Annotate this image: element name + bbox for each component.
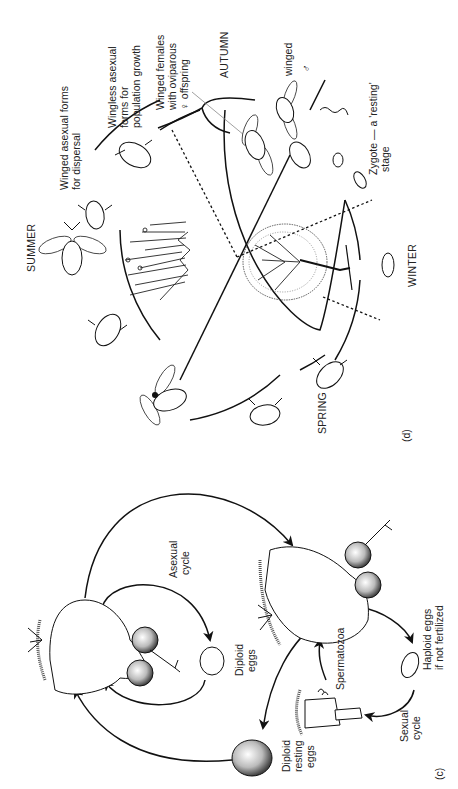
- svg-text:forms for: forms for: [118, 86, 130, 128]
- arrow-spermatozoa: [319, 640, 326, 680]
- label-spermatozoa: Spermatozoa: [334, 627, 346, 690]
- aphid-spring-winged: [136, 362, 189, 427]
- tree-illustration: [243, 224, 352, 300]
- aphid-summer-winged: [37, 222, 109, 275]
- rotifer-adult-asexual: [28, 600, 180, 694]
- grass-illustration: [125, 222, 190, 300]
- svg-text:Asexual: Asexual: [167, 541, 179, 578]
- label-wingless-asexual: Wingless asexual forms for population gr…: [106, 45, 142, 128]
- diploid-egg: [200, 647, 224, 675]
- aphid-summer-wingless-1: [78, 200, 112, 231]
- svg-text:resting: resting: [292, 740, 304, 772]
- label-haploid-eggs: Haploid eggs if not fertilized: [421, 605, 445, 670]
- svg-text:Winged females: Winged females: [154, 35, 166, 110]
- autumn-tick: [310, 80, 325, 110]
- aphid-summer-wingless-2: [115, 137, 155, 173]
- svg-text:Sexual: Sexual: [398, 710, 410, 742]
- life-cycle-figure: SUMMER AUTUMN WINTER SPRING Winged asexu…: [0, 0, 458, 789]
- aphid-spring-1: [248, 398, 282, 427]
- svg-text:population growth: population growth: [130, 45, 142, 128]
- label-spring: SPRING: [316, 392, 328, 434]
- svg-text:eggs: eggs: [304, 745, 316, 768]
- svg-text:Haploid eggs: Haploid eggs: [421, 609, 433, 670]
- haploid-egg: [398, 650, 422, 680]
- egg-winter: [382, 253, 394, 277]
- dashed-divider-3: [323, 297, 380, 320]
- arrow-eggs-to-adult: [105, 680, 205, 705]
- svg-text:Diploid: Diploid: [280, 740, 292, 772]
- diploid-resting-egg: [232, 740, 272, 776]
- rotifer-male: [296, 690, 362, 735]
- label-winter: WINTER: [406, 244, 418, 287]
- label-diploid-eggs: Diploid eggs: [233, 644, 257, 676]
- svg-text:if not fertilized: if not fertilized: [433, 605, 445, 670]
- cycle-arc-spring-summer: [120, 230, 160, 340]
- svg-text:♂: ♂: [300, 64, 312, 72]
- label-summer: SUMMER: [25, 223, 37, 272]
- svg-text:♀ offspring: ♀ offspring: [178, 59, 190, 110]
- aphid-autumn-winged-male: [273, 79, 300, 141]
- svg-text:for dispersal: for dispersal: [70, 133, 82, 190]
- panel-label-c: (c): [433, 768, 445, 780]
- svg-text:Diploid: Diploid: [233, 644, 245, 676]
- mating-squiggle: [320, 108, 348, 116]
- label-autumn: AUTUMN: [218, 31, 230, 78]
- panel-label-d: (d): [400, 429, 412, 442]
- panel-c-rotifer-cycle: Asexual cycle Diploid eggs Diploid resti…: [28, 494, 445, 780]
- spermatozoa-icon: [318, 689, 328, 695]
- diagonal-divider: [180, 155, 290, 380]
- svg-text:eggs: eggs: [245, 649, 257, 672]
- label-winged-females: Winged females with oviparous ♀ offsprin…: [154, 35, 190, 111]
- svg-text:with oviparous: with oviparous: [166, 43, 178, 111]
- label-sexual-cycle: Sexual cycle: [398, 710, 422, 742]
- cycle-arc-winter-spring: [335, 280, 360, 360]
- aphid-summer-wingless-3: [88, 310, 127, 350]
- arrow-outer-left: [75, 690, 232, 761]
- panel-d-aphid-cycle: SUMMER AUTUMN WINTER SPRING Winged asexu…: [25, 31, 418, 442]
- svg-text:Winged asexual forms: Winged asexual forms: [58, 86, 70, 190]
- svg-text:cycle: cycle: [410, 716, 422, 740]
- svg-text:winged: winged: [282, 43, 294, 77]
- svg-text:Zygote — a 'resting': Zygote — a 'resting': [367, 82, 379, 175]
- arrow-to-haploid-eggs: [362, 608, 412, 642]
- egg-autumn-1: [333, 153, 343, 167]
- cycle-arc-autumn-winter: [224, 110, 345, 330]
- aphid-spring-2: [312, 357, 349, 394]
- cycle-arc-spring2: [300, 355, 325, 370]
- svg-text:stage: stage: [379, 146, 391, 172]
- label-zygote: Zygote — a 'resting' stage: [367, 82, 391, 175]
- label-winged-asexual: Winged asexual forms for dispersal: [58, 86, 82, 190]
- label-asexual-cycle: Asexual cycle: [167, 541, 191, 578]
- label-diploid-resting-eggs: Diploid resting eggs: [280, 740, 316, 772]
- aphid-autumn-winged-female: [239, 113, 276, 177]
- rotifer-adult-mictic: [258, 520, 392, 645]
- svg-text:cycle: cycle: [179, 551, 191, 575]
- label-winged-male: winged ♂: [282, 43, 312, 77]
- svg-text:Wingless asexual: Wingless asexual: [106, 46, 118, 128]
